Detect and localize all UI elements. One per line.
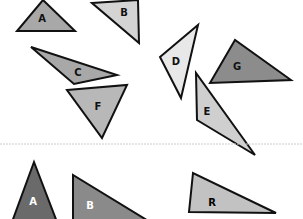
top-triangle-a [17,0,75,31]
bottom-triangle-label-r: R [208,197,216,208]
top-triangle-g [210,40,291,83]
bottom-triangle-r [189,173,276,213]
top-triangle-b [92,0,139,43]
bottom-triangle-a [12,162,57,219]
top-triangle-label-b: B [120,7,128,18]
bottom-triangle-label-a: A [29,196,37,207]
triangle-canvas: ABCFDGE ABR [0,0,303,219]
bottom-triangle-b [73,175,150,219]
bottom-triangle-set: ABR [12,162,276,219]
top-triangle-label-g: G [233,61,241,72]
top-triangle-c [31,47,117,84]
top-triangle-label-a: A [38,13,46,24]
top-triangle-label-f: F [95,101,102,112]
top-triangle-set: ABCFDGE [17,0,291,155]
top-triangle-label-d: D [172,56,180,67]
top-triangle-label-e: E [204,106,211,117]
top-triangle-label-c: C [74,67,81,78]
bottom-triangle-label-b: B [86,200,94,211]
